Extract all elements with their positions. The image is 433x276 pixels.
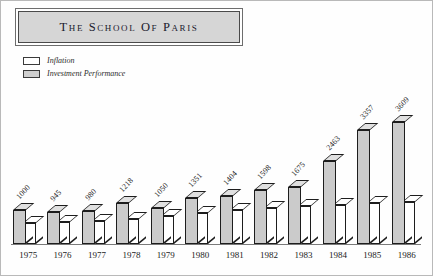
bar-top	[254, 183, 275, 190]
bar-side	[277, 236, 284, 244]
x-axis-tick-label: 1977	[80, 250, 114, 260]
bar-gray	[47, 212, 60, 244]
bar-side	[36, 236, 43, 244]
bar-gray	[357, 130, 370, 244]
bar-gray	[288, 187, 301, 244]
bar-top	[126, 212, 147, 219]
bar-face	[254, 190, 267, 244]
bar-top	[47, 205, 68, 212]
bar-value-label: 1050	[152, 182, 169, 200]
bar-face	[392, 122, 405, 244]
bar-value-label: 980	[83, 187, 98, 202]
chart-legend: Inflation Investment Performance	[23, 56, 125, 78]
x-axis-tick-label: 1982	[252, 250, 286, 260]
title-plaque: The School of Paris	[15, 8, 243, 46]
bar-value-label: 3609	[393, 95, 410, 113]
bar-face	[323, 161, 336, 244]
bar-gray	[185, 198, 198, 244]
bar-face	[82, 211, 95, 244]
legend-swatch-inflation	[23, 57, 40, 65]
bar-top	[357, 123, 378, 130]
bar-value-label: 3357	[359, 104, 376, 122]
x-axis-tick-label: 1983	[286, 250, 320, 260]
x-axis-tick-label: 1976	[45, 250, 79, 260]
bar-top	[264, 201, 285, 208]
bar-gray	[254, 190, 267, 244]
bar-value-label: 1000	[14, 183, 31, 201]
bar-gray	[116, 203, 129, 244]
bar-gray	[82, 211, 95, 244]
bar-face	[116, 203, 129, 244]
bar-top	[195, 206, 216, 213]
bar-top	[82, 204, 103, 211]
legend-item-inflation: Inflation	[23, 56, 125, 65]
x-axis-tick-label: 1980	[183, 250, 217, 260]
bar-top	[185, 191, 206, 198]
bar-top	[23, 216, 44, 223]
bar-top	[288, 180, 309, 187]
bar-top	[298, 199, 319, 206]
bar-value-label: 1598	[255, 163, 272, 181]
legend-label-inflation: Inflation	[47, 56, 75, 65]
bar-side	[311, 236, 318, 244]
bar-value-label: 1404	[221, 170, 238, 188]
bar-top	[323, 154, 344, 161]
bar-top	[13, 203, 34, 210]
bar-gray	[13, 210, 26, 244]
bar-top	[333, 198, 354, 205]
bar-side	[105, 236, 112, 244]
legend-item-investment-performance: Investment Performance	[23, 69, 125, 78]
bar-gray	[392, 122, 405, 244]
title-plaque-inner: The School of Paris	[18, 11, 240, 43]
x-axis-tick-label: 1975	[11, 250, 45, 260]
x-axis-tick-label: 1981	[218, 250, 252, 260]
bar-side	[208, 236, 215, 244]
page-title: The School of Paris	[60, 20, 199, 35]
bar-top	[367, 196, 388, 203]
bar-value-label: 1218	[118, 176, 135, 194]
axis-baseline	[11, 244, 421, 245]
bar-face	[13, 210, 26, 244]
x-axis-tick-label: 1985	[355, 250, 389, 260]
bar-value-label: 1351	[186, 171, 203, 189]
bar-top	[92, 214, 113, 221]
bar-value-label: 945	[49, 188, 64, 203]
legend-swatch-investment-performance	[23, 70, 40, 78]
bar-side	[415, 236, 422, 244]
bar-top	[161, 209, 182, 216]
bar-top	[57, 215, 78, 222]
bar-top	[220, 189, 241, 196]
bar-top	[392, 115, 413, 122]
bar-side	[346, 236, 353, 244]
x-axis-labels: 1975197619771978197919801981198219831984…	[11, 250, 424, 266]
chart-frame: The School of Paris Inflation Investment…	[0, 0, 433, 276]
bar-gray	[323, 161, 336, 244]
bar-top	[116, 196, 137, 203]
bar-face	[357, 130, 370, 244]
bar-face	[220, 196, 233, 244]
bar-face	[185, 198, 198, 244]
x-axis-tick-label: 1978	[114, 250, 148, 260]
bar-value-label: 2463	[324, 134, 341, 152]
bar-side	[174, 236, 181, 244]
bar-side	[243, 236, 250, 244]
bar-side	[380, 236, 387, 244]
bar-top	[151, 201, 172, 208]
bar-face	[151, 208, 164, 244]
bar-side	[139, 236, 146, 244]
bar-value-label: 1675	[290, 160, 307, 178]
bar-side	[70, 236, 77, 244]
bar-top	[230, 203, 251, 210]
x-axis-tick-label: 1979	[149, 250, 183, 260]
x-axis-tick-label: 1984	[321, 250, 355, 260]
bar-gray	[151, 208, 164, 244]
bar-face	[288, 187, 301, 244]
bar-top	[402, 195, 423, 202]
x-axis-tick-label: 1986	[390, 250, 424, 260]
bar-gray	[220, 196, 233, 244]
legend-label-investment-performance: Investment Performance	[47, 69, 125, 78]
bar-face	[47, 212, 60, 244]
plot-area: 1000945980121810501351140415981675246333…	[11, 96, 424, 244]
